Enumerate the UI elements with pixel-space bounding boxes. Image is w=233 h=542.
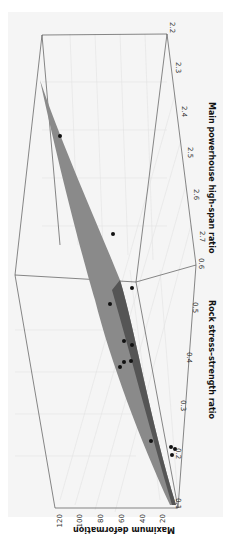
svg-text:0.4: 0.4 <box>185 352 193 364</box>
svg-text:120: 120 <box>56 514 64 527</box>
svg-text:2.5: 2.5 <box>186 147 194 158</box>
svg-text:0.3: 0.3 <box>179 400 187 411</box>
plot-background <box>8 12 223 517</box>
svg-text:0.1: 0.1 <box>174 498 182 509</box>
svg-text:20: 20 <box>159 514 167 523</box>
svg-text:60: 60 <box>118 514 126 523</box>
svg-text:0.6: 0.6 <box>197 258 205 270</box>
surface-chart: 2.2 2.3 2.4 2.5 2.6 2.7 Main powerhouse … <box>0 0 233 542</box>
svg-text:40: 40 <box>139 514 147 523</box>
x-axis-label: Rock stress–strength ratio <box>207 300 216 420</box>
svg-text:2.7: 2.7 <box>198 231 206 242</box>
svg-text:2.3: 2.3 <box>174 62 182 73</box>
svg-text:0.2: 0.2 <box>174 448 182 459</box>
svg-text:2.4: 2.4 <box>180 106 188 118</box>
svg-text:2.2: 2.2 <box>168 22 176 33</box>
y-axis-label: Main powerhouse high-span ratio <box>207 102 216 254</box>
svg-text:80: 80 <box>97 514 105 523</box>
svg-text:0.5: 0.5 <box>191 302 199 313</box>
svg-text:2.6: 2.6 <box>192 189 200 201</box>
z-axis-label: Maximum deformation <box>73 525 175 534</box>
